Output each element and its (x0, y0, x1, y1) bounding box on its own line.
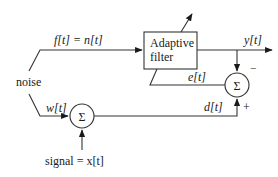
adaptive-filter-diagram: Adaptive filter Σ − + Σ noise f[t] = n[t… (0, 0, 278, 177)
sum-bottom-symbol: Σ (79, 110, 86, 124)
adaptive-filter-label-line2: filter (150, 50, 173, 64)
adaptive-filter-label-line1: Adaptive (150, 36, 194, 50)
sum-top-minus-sign: − (250, 62, 256, 74)
e-label: e[t] (188, 70, 206, 84)
noise-to-filter-path (29, 50, 142, 71)
y-label: y[t] (243, 33, 262, 47)
sum-top-plus-sign: + (243, 100, 250, 114)
f-equals-n-label: f[t] = n[t] (54, 33, 103, 47)
noise-label: noise (16, 75, 41, 89)
adaptation-arrow-icon (181, 14, 192, 32)
w-label: w[t] (46, 101, 67, 115)
sum-top-symbol: Σ (234, 79, 241, 93)
d-label: d[t] (204, 100, 223, 114)
signal-label: signal = x[t] (45, 154, 104, 168)
